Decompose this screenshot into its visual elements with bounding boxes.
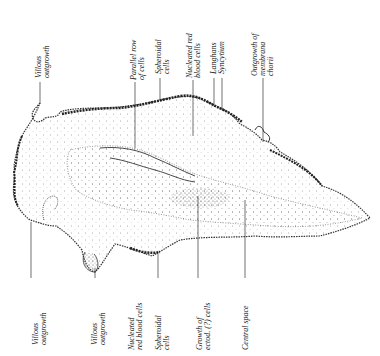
label-villous-outgrowth-bottom-left: Villous outgrowth <box>32 312 48 345</box>
label-villous-outgrowth-bottom: Villous outgrowth <box>91 312 107 345</box>
label-nucleated-red-blood-cells-top: Nucleated red blood cells <box>186 33 202 78</box>
label-growth-of-ectod-cells: Growth of ectod. (?) cells <box>196 303 212 350</box>
label-syncytium: Syncytium <box>218 41 226 74</box>
label-parallel-row-of-cells: Parallel row of cells <box>130 40 146 80</box>
label-villous-outgrowth-top: Villous outgrowth <box>35 45 51 78</box>
label-central-space: Central space <box>242 305 250 350</box>
label-spheroidal-cells-bottom: Spheroidal cells <box>155 315 171 350</box>
villus-body <box>13 96 370 272</box>
label-nucleated-red-blood-cells-bottom: Nucleated red blood cells <box>128 303 144 350</box>
label-outgrowth-of-membrana-chorii: Outgrowth of membrana chorii <box>251 33 275 76</box>
label-spheroidal-cells-top: Spheroidal cells <box>155 39 171 74</box>
